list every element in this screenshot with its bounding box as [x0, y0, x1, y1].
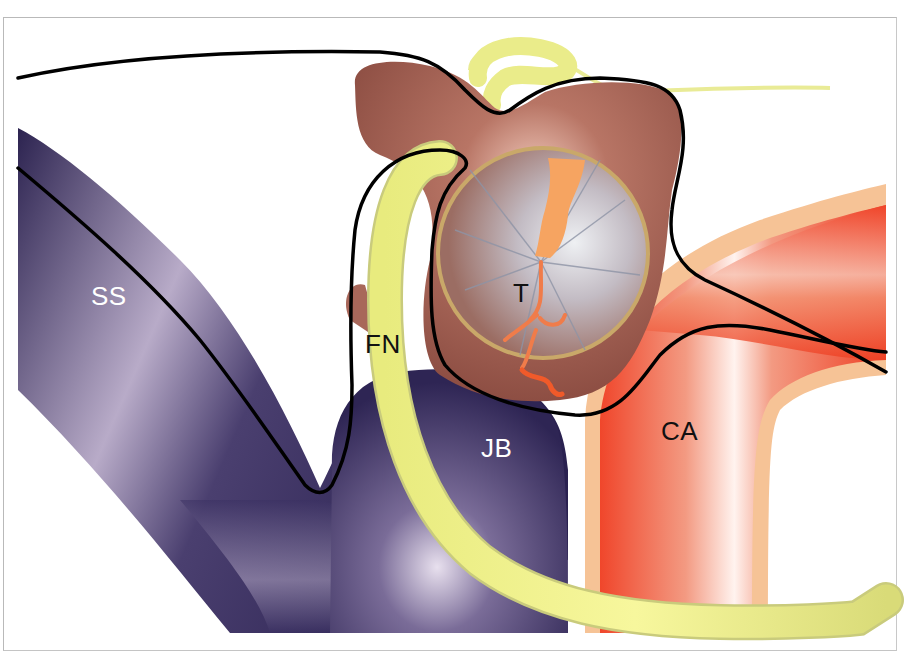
- label-jb: JB: [481, 435, 512, 461]
- label-t: T: [513, 280, 529, 306]
- anatomy-illustration: [0, 0, 905, 665]
- label-ss: SS: [91, 283, 127, 309]
- label-ca: CA: [661, 418, 698, 444]
- label-fn: FN: [365, 331, 401, 357]
